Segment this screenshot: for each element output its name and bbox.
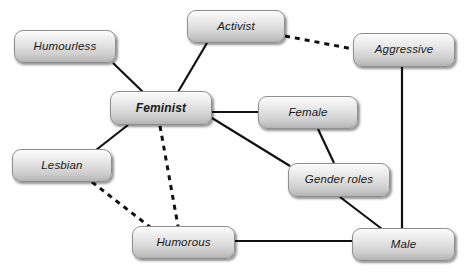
node-aggressive[interactable]: Aggressive [353, 33, 455, 67]
node-lesbian[interactable]: Lesbian [12, 149, 112, 182]
node-humourless[interactable]: Humourless [14, 30, 116, 63]
node-label-feminist: Feminist [136, 102, 187, 114]
node-label-lesbian: Lesbian [41, 160, 82, 172]
node-label-humourless: Humourless [34, 41, 97, 53]
node-feminist[interactable]: Feminist [110, 91, 212, 125]
node-label-gender-roles: Gender roles [305, 174, 373, 186]
edge-feminist-lesbian [96, 125, 128, 150]
edge-gender-roles-male [340, 197, 382, 229]
node-label-activist: Activist [217, 21, 255, 33]
edge-feminist-humorous [160, 126, 178, 226]
node-label-humorous: Humorous [156, 237, 210, 249]
node-female[interactable]: Female [258, 96, 358, 129]
node-humorous[interactable]: Humorous [132, 226, 235, 259]
node-male[interactable]: Male [352, 228, 455, 261]
node-gender-roles[interactable]: Gender roles [288, 163, 390, 197]
node-label-aggressive: Aggressive [375, 44, 433, 56]
node-label-female: Female [288, 107, 327, 119]
concept-map-canvas: HumourlessActivistAggressiveFeministFema… [0, 0, 464, 273]
edge-activist-feminist [178, 43, 207, 92]
edge-female-gender-roles [318, 129, 334, 163]
edge-activist-aggressive [285, 36, 353, 49]
node-activist[interactable]: Activist [187, 10, 285, 43]
node-label-male: Male [391, 239, 417, 251]
edge-humourless-feminist [113, 63, 143, 92]
edge-lesbian-humorous [92, 182, 150, 227]
